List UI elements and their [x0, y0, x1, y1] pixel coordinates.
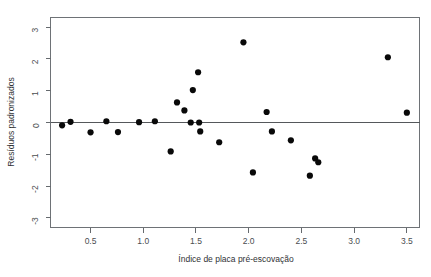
y-tick-label: 0: [31, 123, 41, 128]
data-point: [240, 39, 246, 45]
data-point: [197, 128, 203, 134]
y-tick-label: 1: [31, 91, 41, 96]
x-tick-label: 0.5: [85, 236, 97, 246]
y-axis-ticks: -3-2-10123: [31, 27, 51, 225]
data-point: [196, 119, 202, 125]
y-axis-title: Resíduos padronizados: [6, 77, 16, 166]
x-tick-label: 1.0: [137, 236, 149, 246]
data-point: [188, 119, 194, 125]
y-tick-label: -3: [31, 217, 41, 225]
y-tick-label: 2: [31, 59, 41, 64]
data-point: [174, 99, 180, 105]
y-tick-label: 3: [31, 27, 41, 32]
data-point: [307, 173, 313, 179]
data-point: [264, 109, 270, 115]
x-axis-title: Índice de placa pré-escovação: [178, 254, 294, 264]
y-tick-label: -1: [31, 153, 41, 161]
data-point: [315, 159, 321, 165]
data-point: [152, 118, 158, 124]
y-tick-label: -2: [31, 185, 41, 193]
data-point: [59, 122, 65, 128]
data-point: [385, 54, 391, 60]
data-point: [87, 129, 93, 135]
cropped-header-text: [0, 0, 431, 11]
data-point: [190, 87, 196, 93]
x-tick-label: 2.5: [296, 236, 308, 246]
x-tick-label: 3.5: [401, 236, 413, 246]
data-point: [195, 69, 201, 75]
data-point: [103, 118, 109, 124]
x-axis-ticks: 0.51.01.52.02.53.03.5: [85, 228, 413, 246]
x-tick-label: 3.0: [348, 236, 360, 246]
scatter-points: [59, 39, 410, 179]
plot-canvas: 0.51.01.52.02.53.03.5 -3-2-10123 Índice …: [0, 0, 431, 277]
data-point: [181, 107, 187, 113]
data-point: [404, 110, 410, 116]
data-point: [250, 169, 256, 175]
x-tick-label: 2.0: [243, 236, 255, 246]
residual-scatter-plot: 0.51.01.52.02.53.03.5 -3-2-10123 Índice …: [0, 0, 431, 277]
data-point: [136, 119, 142, 125]
data-point: [67, 119, 73, 125]
data-point: [115, 129, 121, 135]
x-tick-label: 1.5: [190, 236, 202, 246]
data-point: [168, 148, 174, 154]
data-point: [269, 128, 275, 134]
data-point: [288, 137, 294, 143]
data-point: [216, 139, 222, 145]
